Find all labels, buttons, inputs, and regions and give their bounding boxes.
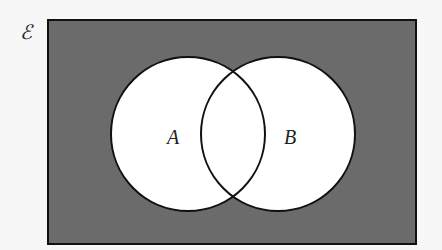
universal-set-symbol: ℰ xyxy=(20,20,34,44)
set-a-label: A xyxy=(165,126,180,148)
set-b-label: B xyxy=(284,126,296,148)
venn-diagram: ℰ A B xyxy=(0,0,442,250)
